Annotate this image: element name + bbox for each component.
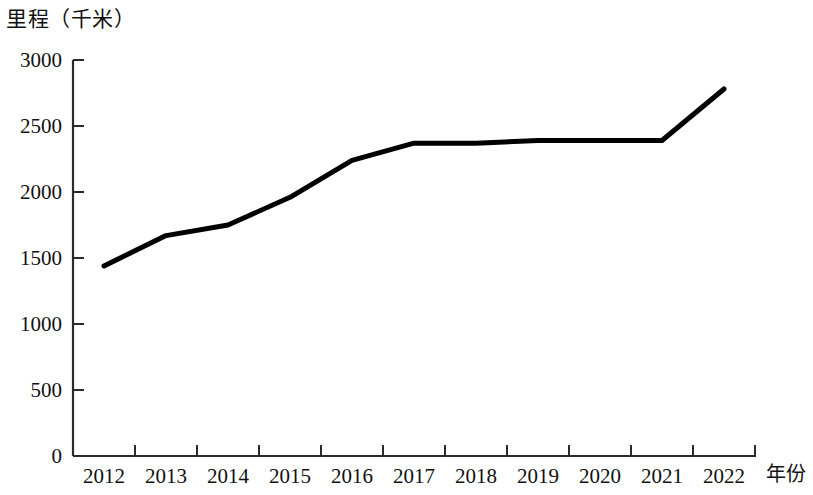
data-series-line xyxy=(104,89,724,266)
y-axis-ticks xyxy=(73,60,84,390)
axis-lines xyxy=(73,60,756,456)
plot-area xyxy=(0,0,813,495)
line-chart: 里程（千米） 3000 2500 2000 1500 1000 500 0 20… xyxy=(0,0,813,495)
x-axis-ticks xyxy=(135,445,755,456)
